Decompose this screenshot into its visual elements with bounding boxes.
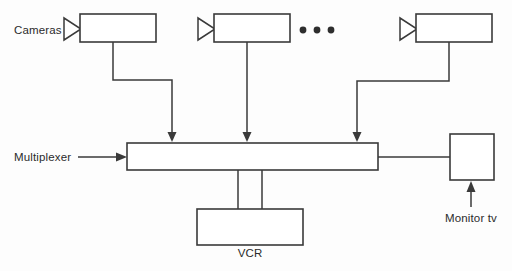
arrowhead-icon	[467, 181, 476, 192]
camera-body	[416, 14, 492, 42]
wire-camera-2-to-multiplexer	[243, 42, 252, 142]
cameras-label: Cameras	[14, 24, 62, 36]
wire-multiplexer-to-vcr	[238, 170, 262, 209]
multiplexer-label: Multiplexer	[14, 151, 71, 163]
camera-lens-icon	[64, 18, 81, 40]
camera-body	[80, 14, 156, 42]
camera-lens-icon	[198, 18, 215, 40]
vcr-box	[197, 209, 303, 245]
camera-1	[64, 14, 156, 42]
monitor-pointer	[467, 181, 476, 207]
arrowhead-icon	[353, 132, 362, 142]
block-diagram: Cameras Multiplexer VCR Monitor tv	[0, 0, 512, 271]
camera-2	[198, 14, 290, 42]
monitor-label: Monitor tv	[445, 212, 497, 224]
diagram-canvas: Cameras Multiplexer VCR Monitor tv	[0, 0, 512, 271]
ellipsis-icon	[300, 27, 335, 34]
camera-body	[214, 14, 290, 42]
arrowhead-icon	[116, 153, 127, 162]
monitor-box	[450, 134, 494, 180]
camera-3	[400, 14, 492, 42]
arrowhead-icon	[168, 132, 177, 142]
multiplexer-pointer	[78, 153, 127, 162]
camera-lens-icon	[400, 18, 417, 40]
multiplexer-bar	[127, 143, 378, 170]
vcr-label: VCR	[238, 247, 263, 259]
arrowhead-icon	[243, 132, 252, 142]
wire-camera-1-to-multiplexer	[113, 42, 177, 142]
wire-camera-3-to-multiplexer	[353, 42, 450, 142]
